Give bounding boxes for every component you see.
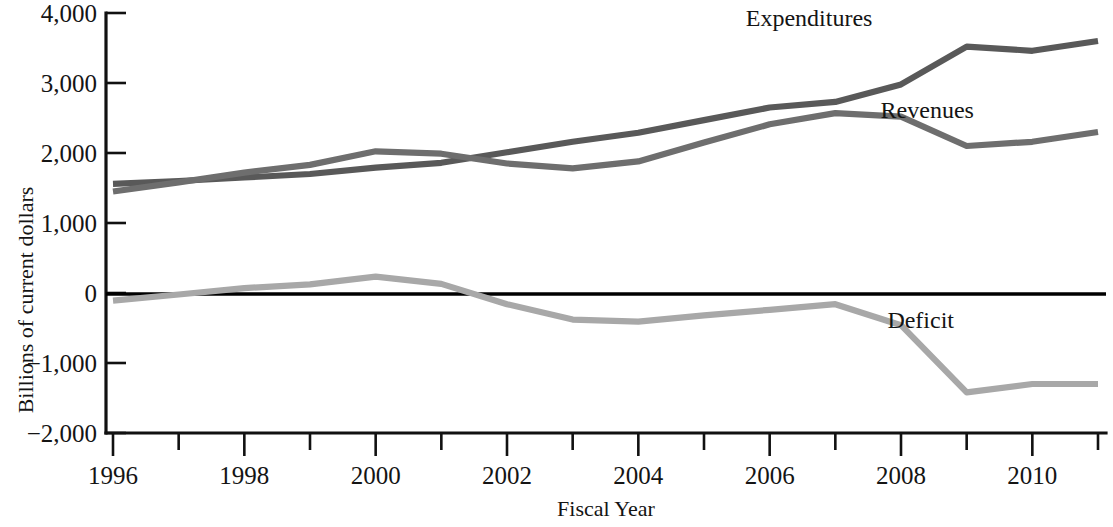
x-tick-label: 2002 <box>482 462 532 489</box>
x-tick-label: 2000 <box>351 462 401 489</box>
line-chart: 4,0003,0002,0001,0000−1,000−2,000 Billio… <box>0 0 1113 527</box>
x-axis-title: Fiscal Year <box>557 496 655 521</box>
series-annotation-revenues: Revenues <box>881 97 974 123</box>
x-tick-label: 2004 <box>613 462 664 489</box>
y-axis-group: 4,0003,0002,0001,0000−1,000−2,000 Billio… <box>13 0 126 447</box>
y-tick-label: 3,000 <box>41 70 97 97</box>
chart-container: 4,0003,0002,0001,0000−1,000−2,000 Billio… <box>0 0 1113 527</box>
x-tick-label: 2006 <box>745 462 795 489</box>
x-tick-labels: 19961998200020022004200620082010 <box>88 462 1057 489</box>
x-tick-marks <box>113 433 1098 456</box>
y-tick-label: 1,000 <box>41 210 97 237</box>
y-tick-marks <box>106 13 126 433</box>
series-annotation-expenditures: Expenditures <box>746 5 873 31</box>
y-tick-label: 4,000 <box>41 0 97 27</box>
x-axis-group: 19961998200020022004200620082010 Fiscal … <box>88 433 1106 521</box>
series-annotation-deficit: Deficit <box>887 307 954 333</box>
x-tick-label: 2010 <box>1007 462 1057 489</box>
y-tick-label: 0 <box>85 280 98 307</box>
series-paths <box>113 41 1098 392</box>
y-axis-title: Billions of current dollars <box>13 187 38 414</box>
y-tick-label: −2,000 <box>27 420 97 447</box>
series-annotations: ExpendituresRevenuesDeficit <box>746 5 974 333</box>
x-tick-label: 2008 <box>876 462 926 489</box>
x-tick-label: 1998 <box>219 462 269 489</box>
y-tick-label: 2,000 <box>41 140 97 167</box>
x-tick-label: 1996 <box>88 462 138 489</box>
series-line-revenues <box>113 113 1098 191</box>
